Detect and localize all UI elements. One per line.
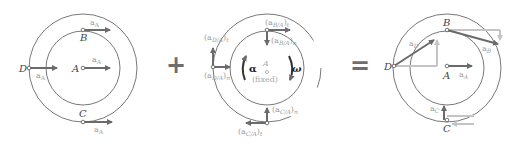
label-a-C: aC	[430, 104, 440, 114]
label-B: B	[79, 32, 87, 43]
arrow-a-B	[447, 30, 498, 44]
point-D	[27, 66, 31, 70]
label-C: C	[79, 108, 87, 119]
point-B	[265, 28, 269, 32]
point-A	[445, 64, 449, 68]
label-aDA-n: (aD/A)n	[204, 71, 230, 81]
label-alpha: α	[249, 63, 257, 74]
label-A: A	[71, 63, 79, 74]
label-aBA-n: (aB/A)n	[271, 36, 297, 46]
label-a-A-C: aA	[94, 125, 104, 135]
label-a-A-A: aA	[92, 55, 102, 65]
label-aCA-n: (aC/A)n	[272, 105, 298, 115]
point-C	[81, 120, 85, 124]
label-aCA-t: (aC/A)t	[238, 127, 263, 137]
panel-translation: B aA A aA D aA C aA	[18, 14, 137, 135]
point-A-fixed	[266, 71, 269, 74]
plus-operator: +	[166, 51, 186, 79]
label-a-A: aA	[459, 70, 469, 80]
label-B: B	[442, 17, 450, 28]
label-fixed: (fixed)	[252, 75, 278, 84]
panel-rotation: A (fixed) α ω (aB/A)t (aB/A)n (aD/A)t (a…	[204, 14, 321, 137]
equals-operator: =	[350, 52, 370, 80]
label-a-D: aD	[409, 39, 419, 49]
label-a-A-D: aA	[36, 71, 46, 81]
panel-result: A aA B aB D aD C aC	[383, 14, 501, 134]
label-a-A-B: aA	[90, 18, 100, 28]
point-C	[265, 121, 269, 125]
label-A: A	[442, 70, 450, 81]
point-C	[445, 118, 449, 122]
label-C: C	[443, 123, 451, 134]
label-omega: ω	[292, 63, 302, 74]
point-A	[81, 66, 85, 70]
label-A: A	[262, 59, 269, 68]
point-B	[445, 28, 449, 32]
point-D	[211, 65, 215, 69]
label-a-B: aB	[482, 44, 492, 54]
label-aBA-t: (aB/A)t	[265, 18, 290, 28]
point-D	[392, 64, 396, 68]
label-D: D	[18, 63, 27, 74]
alpha-arc-icon	[243, 56, 246, 80]
label-aDA-t: (aD/A)t	[204, 33, 229, 43]
label-D: D	[383, 61, 392, 72]
relative-acceleration-diagram: B aA A aA D aA C aA + A (fixed) α ω (aB/	[0, 0, 517, 152]
